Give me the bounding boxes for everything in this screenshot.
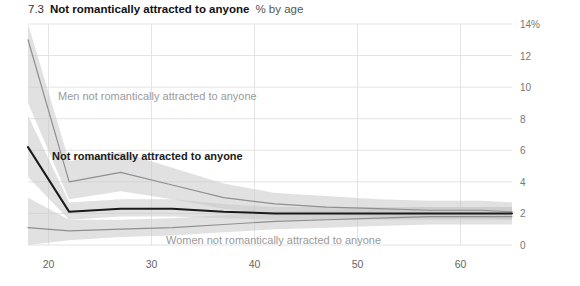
x-tick-label: 60 bbox=[455, 258, 467, 270]
y-tick-label: 8 bbox=[520, 113, 526, 124]
y-tick-label: 6 bbox=[520, 145, 526, 156]
x-tick-label: 20 bbox=[43, 258, 55, 270]
x-tick-label: 50 bbox=[352, 258, 364, 270]
series-label-women: Women not romantically attracted to anyo… bbox=[166, 234, 381, 246]
series-label-all: Not romantically attracted to anyone bbox=[52, 150, 243, 162]
y-tick-label: 2 bbox=[520, 208, 526, 219]
y-tick-label: 10 bbox=[520, 82, 531, 93]
x-tick-label: 30 bbox=[146, 258, 158, 270]
y-tick-label: 14% bbox=[520, 19, 540, 30]
y-tick-label: 4 bbox=[520, 176, 526, 187]
chart-figure: 7.3 Not romantically attracted to anyone… bbox=[0, 0, 580, 286]
y-tick-label: 0 bbox=[520, 240, 526, 251]
series-label-men: Men not romantically attracted to anyone bbox=[58, 90, 257, 102]
x-tick-label: 40 bbox=[249, 258, 261, 270]
y-tick-label: 12 bbox=[520, 50, 531, 61]
